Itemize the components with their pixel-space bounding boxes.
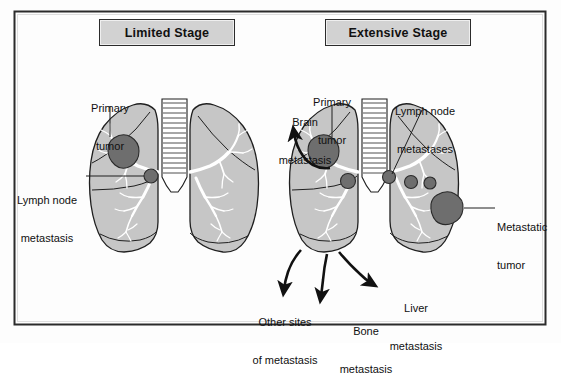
label-lymph-node-metastasis-limited: Lymph node metastasis	[10, 169, 84, 269]
label-lymph-node-metastasis-line2: metastasis	[10, 232, 84, 245]
label-other-sites-line1: Other sites	[245, 316, 325, 329]
label-other-sites-line2: of metastasis	[245, 354, 325, 367]
label-liver-metastasis: Liver metastasis	[380, 277, 452, 377]
extensive-metastatic-tumor-mass	[431, 192, 463, 225]
label-metastatic-tumor: Metastatic tumor	[497, 196, 559, 296]
label-metastatic-tumor-line2: tumor	[497, 259, 559, 272]
label-primary-tumor-limited: Primary tumor	[78, 77, 142, 177]
arrow-other-sites	[284, 250, 301, 289]
label-lymph-node-metastases-line1: Lymph node	[386, 105, 464, 118]
label-primary-tumor-limited-line1: Primary	[78, 102, 142, 115]
trachea-left	[162, 99, 187, 192]
label-lymph-node-metastasis-line1: Lymph node	[10, 194, 84, 207]
label-liver-metastasis-line2: metastasis	[380, 340, 452, 353]
label-other-sites-of-metastasis: Other sites of metastasis	[245, 291, 325, 377]
extensive-stage-title-box: Extensive Stage	[325, 19, 471, 46]
label-lymph-node-metastases-line2: metastases	[386, 143, 464, 156]
lung-left-panel-patient-left	[190, 104, 259, 252]
label-liver-metastasis-line1: Liver	[380, 302, 452, 315]
limited-stage-title: Limited Stage	[125, 26, 210, 40]
label-lymph-node-metastases: Lymph node metastases	[386, 80, 464, 180]
label-brain-metastasis-line2: metastasis	[268, 154, 342, 167]
label-brain-metastasis: Brain metastasis	[268, 91, 342, 191]
limited-stage-title-box: Limited Stage	[99, 19, 235, 46]
extensive-lymph-node-mass-1	[341, 174, 356, 189]
label-brain-metastasis-line1: Brain	[268, 116, 342, 129]
arrow-liver-metastasis	[339, 252, 371, 283]
label-primary-tumor-limited-line2: tumor	[78, 140, 142, 153]
limited-lymph-node-mass	[144, 169, 158, 183]
arrow-bone-metastasis	[321, 254, 327, 296]
extensive-stage-title: Extensive Stage	[349, 26, 448, 40]
label-metastatic-tumor-line1: Metastatic	[497, 221, 559, 234]
